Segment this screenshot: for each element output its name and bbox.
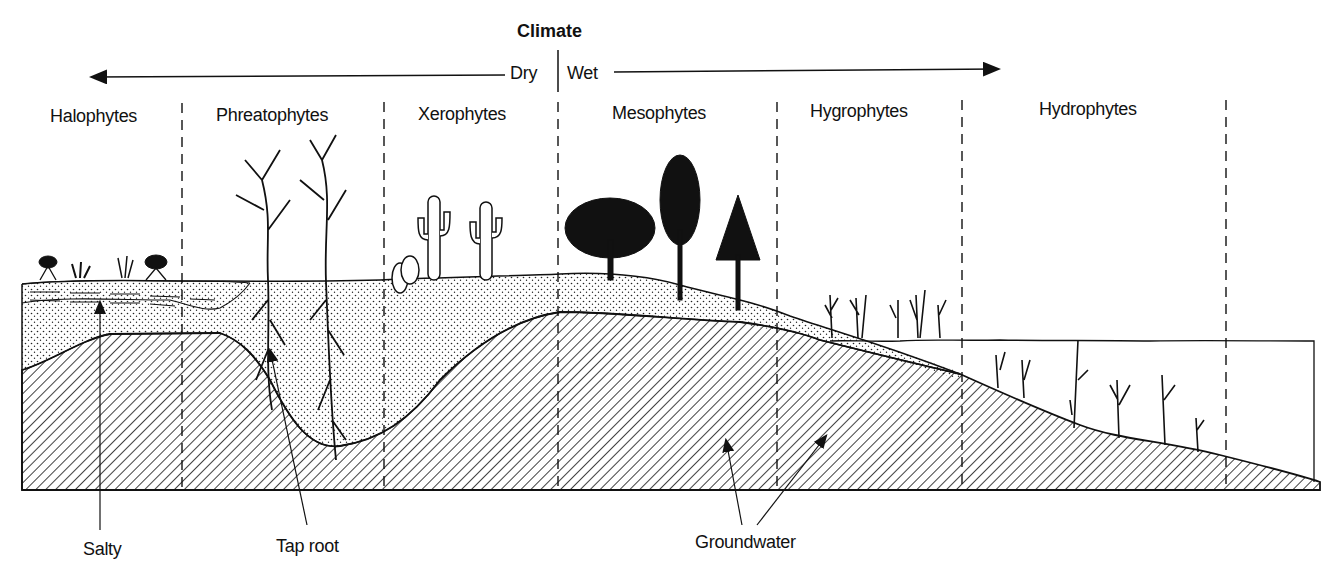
halophyte-plants	[39, 255, 167, 280]
wet-arrow	[614, 69, 998, 72]
ecology-cross-section	[0, 0, 1336, 577]
dry-arrow	[92, 75, 505, 77]
bedrock-layer	[22, 312, 1320, 490]
